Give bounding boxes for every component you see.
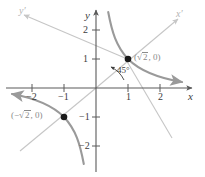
graph-canvas <box>0 0 205 177</box>
hyperbola-branch-lower-left <box>12 94 84 164</box>
x-tick-label-2: 2 <box>158 91 163 102</box>
y-prime-axis <box>24 15 172 138</box>
y-tick-label--2: −2 <box>79 140 90 151</box>
vertex-label-lower-left: (−√2, 0) <box>11 110 43 120</box>
y-tick-label--1: −1 <box>79 111 90 122</box>
x-prime-axis <box>20 19 178 151</box>
radical-symbol: √2 <box>19 110 30 120</box>
x-prime-axis-label: x′ <box>176 8 183 19</box>
radical-symbol: √2 <box>137 52 148 62</box>
vertex-label-upper-right: (√2, 0) <box>134 52 160 62</box>
hyperbola-figure: x y x′ y′ −2 −1 1 2 2 1 −1 −2 45° (√2, 0… <box>0 0 205 177</box>
y-axis-label: y <box>85 9 90 21</box>
x-tick-label--2: −2 <box>26 91 37 102</box>
x-tick-label-1: 1 <box>126 91 131 102</box>
vertex-point-lower-left <box>61 114 68 121</box>
x-axis-label: x <box>188 90 193 102</box>
y-tick-label-2: 2 <box>83 24 88 35</box>
y-tick-label-1: 1 <box>83 53 88 64</box>
angle-label: 45° <box>117 65 130 75</box>
vertex-point-upper-right <box>125 56 132 63</box>
paren-close: , 0) <box>148 52 160 62</box>
y-prime-axis-label: y′ <box>19 5 26 16</box>
x-tick-label--1: −1 <box>58 91 69 102</box>
paren-close: , 0) <box>31 110 43 120</box>
